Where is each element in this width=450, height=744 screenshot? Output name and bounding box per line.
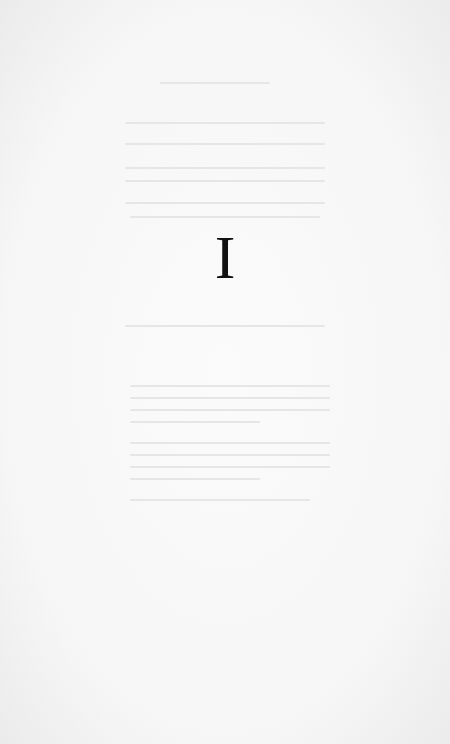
bleed-through-line bbox=[130, 499, 310, 501]
bleed-through-line bbox=[125, 202, 325, 204]
scanned-page: I bbox=[0, 0, 450, 744]
bleed-through-line bbox=[125, 122, 325, 124]
bleed-through-line bbox=[130, 442, 330, 444]
bleed-through-line bbox=[125, 325, 325, 327]
bleed-through-line bbox=[130, 397, 330, 399]
bleed-through-line bbox=[130, 454, 330, 456]
bleed-through-line bbox=[130, 216, 320, 218]
part-numeral: I bbox=[0, 226, 450, 288]
bleed-through-line bbox=[160, 82, 270, 84]
bleed-through-line bbox=[130, 478, 260, 480]
bleed-through-line bbox=[125, 143, 325, 145]
bleed-through-line bbox=[125, 180, 325, 182]
bleed-through-line bbox=[130, 421, 260, 423]
bleed-through-line bbox=[125, 167, 325, 169]
bleed-through-line bbox=[130, 385, 330, 387]
bleed-through-line bbox=[130, 409, 330, 411]
bleed-through-line bbox=[130, 466, 330, 468]
